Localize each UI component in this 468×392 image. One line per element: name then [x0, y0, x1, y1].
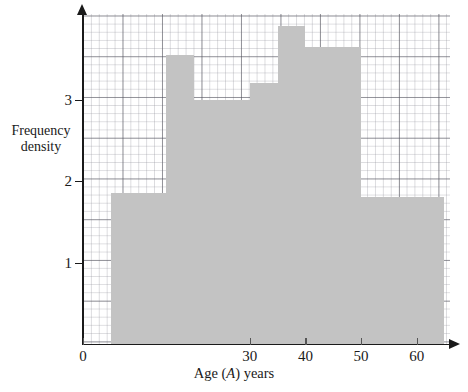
y-axis-tick-label: 1	[0, 256, 82, 271]
x-axis-title-prefix: Age (	[194, 365, 227, 381]
x-axis-title-variable: A	[226, 365, 235, 381]
histogram-bar	[166, 55, 194, 344]
histogram-bar	[111, 193, 167, 344]
histogram-bar	[305, 47, 361, 344]
y-axis-title-line1: Frequency	[6, 123, 76, 139]
x-axis-tick-label: 0	[63, 349, 103, 364]
x-axis-title-suffix: ) years	[235, 365, 274, 381]
x-axis-tick	[305, 338, 306, 345]
plot-area	[83, 14, 450, 344]
x-axis-tick-label: 40	[285, 349, 325, 364]
x-axis-arrow-icon	[449, 339, 460, 349]
histogram-bars	[83, 14, 450, 344]
x-axis-tick	[250, 338, 251, 345]
x-axis-tick	[83, 338, 84, 345]
y-axis-line	[82, 14, 84, 345]
histogram-bar	[250, 83, 278, 344]
histogram-bar	[278, 26, 306, 344]
y-axis-tick-label: 3	[0, 93, 82, 108]
histogram-bar	[194, 100, 250, 344]
histogram-bar	[361, 197, 444, 344]
x-axis-tick	[361, 338, 362, 345]
y-axis-tick-label: 2	[0, 174, 82, 189]
x-axis-line	[82, 344, 451, 346]
histogram-figure: 030405060123 Frequency density Age (A) y…	[0, 0, 468, 392]
y-axis-arrow-icon	[77, 4, 87, 15]
y-axis-title: Frequency density	[6, 123, 76, 155]
x-axis-tick-label: 60	[397, 349, 437, 364]
x-axis-title: Age (A) years	[0, 365, 468, 382]
x-axis-tick	[417, 338, 418, 345]
x-axis-tick-label: 30	[230, 349, 270, 364]
x-axis-tick-label: 50	[341, 349, 381, 364]
y-axis-title-line2: density	[6, 139, 76, 155]
